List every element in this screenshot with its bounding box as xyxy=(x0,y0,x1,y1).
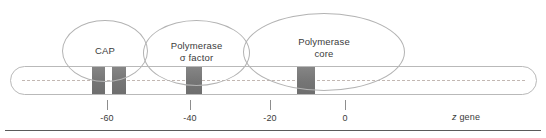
axis-tick-minus-40 xyxy=(190,100,191,110)
axis-tick-zero xyxy=(345,100,346,110)
protein-ellipse-polymerase-core xyxy=(243,13,405,91)
protein-ellipse-polymerase-sigma xyxy=(143,20,250,86)
promoter-binding-diagram: CAP Polymerase σ factor Polymerase core … xyxy=(0,0,546,138)
gene-word: gene xyxy=(457,112,481,122)
protein-ellipse-cap xyxy=(62,20,148,82)
axis-label-zero: 0 xyxy=(325,113,365,123)
gene-caption: z gene xyxy=(452,112,480,122)
axis-label-minus-20: -20 xyxy=(250,113,290,123)
axis-tick-minus-20 xyxy=(270,100,271,110)
axis-tick-minus-60 xyxy=(107,100,108,110)
figure-bottom-rule xyxy=(5,130,541,131)
axis-label-minus-40: -40 xyxy=(170,113,210,123)
axis-label-minus-60: -60 xyxy=(87,113,127,123)
